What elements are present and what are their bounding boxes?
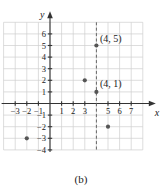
svg-text:−3: −3 [11,106,20,116]
svg-text:6: 6 [42,29,46,39]
x-axis-label: x [154,107,160,118]
point-annotation: (4, 1) [100,78,122,90]
svg-text:2: 2 [42,75,46,85]
data-point [25,136,29,140]
svg-text:−4: −4 [37,145,47,155]
svg-text:−2: −2 [22,106,31,116]
svg-text:3: 3 [83,106,87,116]
figure-caption: (b) [0,173,162,185]
data-point [83,78,87,82]
grid-lines [4,22,143,150]
coordinate-plane-svg: −3−2−1123567654321−1−2−3−4 (4, 5)(4, 1) … [0,0,162,186]
svg-text:2: 2 [71,106,75,116]
svg-text:1: 1 [42,87,46,97]
svg-text:−3: −3 [37,133,46,143]
coordinate-plane-figure: −3−2−1123567654321−1−2−3−4 (4, 5)(4, 1) … [0,0,162,186]
svg-text:3: 3 [42,64,46,74]
svg-text:6: 6 [117,106,121,116]
axes [2,11,156,152]
data-point [94,43,98,47]
svg-text:7: 7 [129,106,133,116]
data-point [94,90,98,94]
point-annotations: (4, 5)(4, 1) [100,33,122,90]
svg-text:5: 5 [106,106,110,116]
svg-text:5: 5 [42,41,46,51]
y-axis-label: y [39,9,45,20]
svg-text:−1: −1 [37,110,46,120]
svg-text:1: 1 [59,106,63,116]
point-annotation: (4, 5) [100,33,122,45]
svg-text:−2: −2 [37,122,46,132]
data-point [106,125,110,129]
